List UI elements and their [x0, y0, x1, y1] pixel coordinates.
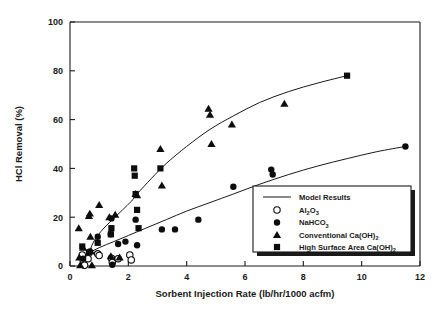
data-point-High Surface Area Ca(OH)2 [135, 225, 141, 231]
x-tick-label: 2 [126, 272, 131, 282]
legend-marker-filled-square [274, 244, 280, 250]
data-point-High Surface Area Ca(OH)2 [108, 231, 114, 237]
legend-label: High Surface Area Ca(OH)2 [299, 243, 396, 253]
legend-marker-open-circle [274, 207, 280, 213]
y-tick-label: 100 [48, 17, 63, 27]
data-point-Conventional Ca(OH)2 [95, 201, 103, 208]
data-point-NaHCO3 [132, 216, 138, 222]
legend-label: Conventional Ca(OH)2 [299, 231, 379, 241]
data-point-NaHCO3 [115, 241, 121, 247]
data-point-Conventional Ca(OH)2 [75, 224, 83, 231]
data-point-NaHCO3 [109, 262, 115, 268]
data-point-High Surface Area Ca(OH)2 [133, 191, 139, 197]
data-point-Al2O3 [128, 257, 134, 263]
hcl-removal-scatter-chart: 024681012020406080100 Sorbent Injection … [0, 0, 444, 314]
data-point-NaHCO3 [172, 226, 178, 232]
x-tick-label: 10 [357, 272, 367, 282]
x-axis-title: Sorbent Injection Rate (lb/hr/1000 acfm) [156, 288, 335, 299]
data-point-Conventional Ca(OH)2 [158, 182, 166, 189]
data-point-High Surface Area Ca(OH)2 [108, 225, 114, 231]
y-tick-label: 20 [53, 213, 63, 223]
data-point-High Surface Area Ca(OH)2 [132, 173, 138, 179]
y-axis-title: HCl Removal (%) [13, 106, 24, 182]
x-tick-label: 6 [242, 272, 247, 282]
data-point-High Surface Area Ca(OH)2 [157, 165, 163, 171]
data-point-High Surface Area Ca(OH)2 [95, 240, 101, 246]
y-tick-label: 60 [53, 115, 63, 125]
data-point-NaHCO3 [402, 143, 408, 149]
data-point-NaHCO3 [159, 226, 165, 232]
data-point-Conventional Ca(OH)2 [86, 233, 94, 240]
data-point-Conventional Ca(OH)2 [280, 100, 288, 107]
data-point-High Surface Area Ca(OH)2 [86, 249, 92, 255]
legend-label: Model Results [299, 193, 350, 202]
data-point-High Surface Area Ca(OH)2 [344, 73, 350, 79]
chart-legend: Model ResultsAl2O3NaHCO3Conventional Ca(… [253, 186, 415, 256]
data-point-NaHCO3 [230, 184, 236, 190]
chart-figure: 024681012020406080100 Sorbent Injection … [0, 0, 444, 314]
data-point-High Surface Area Ca(OH)2 [134, 207, 140, 213]
data-point-High Surface Area Ca(OH)2 [79, 243, 85, 249]
data-point-NaHCO3 [95, 234, 101, 240]
data-point-NaHCO3 [122, 238, 128, 244]
data-point-NaHCO3 [134, 242, 140, 248]
y-tick-label: 80 [53, 66, 63, 76]
data-point-High Surface Area Ca(OH)2 [131, 165, 137, 171]
y-tick-label: 0 [58, 261, 63, 271]
x-tick-label: 0 [67, 272, 72, 282]
data-point-Conventional Ca(OH)2 [86, 210, 94, 217]
data-point-Conventional Ca(OH)2 [207, 140, 215, 147]
legend-label: NaHCO3 [299, 218, 329, 228]
legend-marker-filled-circle [274, 219, 280, 225]
data-point-NaHCO3 [270, 171, 276, 177]
y-tick-label: 40 [53, 164, 63, 174]
data-point-Conventional Ca(OH)2 [204, 105, 212, 112]
data-point-NaHCO3 [195, 216, 201, 222]
data-point-Conventional Ca(OH)2 [88, 261, 96, 268]
data-point-Conventional Ca(OH)2 [156, 145, 164, 152]
data-point-Al2O3 [96, 252, 102, 258]
data-point-Conventional Ca(OH)2 [228, 121, 236, 128]
x-tick-label: 4 [184, 272, 189, 282]
x-tick-label: 8 [301, 272, 306, 282]
data-point-Conventional Ca(OH)2 [206, 111, 214, 118]
x-tick-label: 12 [415, 272, 425, 282]
